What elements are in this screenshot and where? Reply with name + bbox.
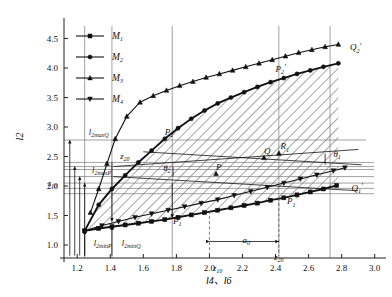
marker-square-M1-3 [123, 223, 127, 227]
y-tick-label-0: 1.0 [47, 240, 59, 250]
marker-circle-M2-6 [163, 137, 167, 141]
marker-circle-M2-1 [97, 203, 101, 207]
marker-square-M1-14 [269, 198, 273, 202]
chart-figure: 1.01.52.02.53.03.54.04.51.21.41.61.82.02… [0, 0, 392, 297]
marker-square-M1-5 [150, 219, 154, 223]
x-tick-label-3: 1.8 [171, 263, 183, 273]
y-tick-label-7: 4.5 [47, 34, 59, 44]
y-tick-label-6: 4.0 [47, 63, 59, 73]
marker-circle-M2-17 [308, 68, 312, 72]
marker-square-M1-13 [255, 201, 259, 205]
marker-square-M1-6 [163, 218, 167, 222]
annotation-P: P [215, 162, 222, 172]
marker-square-M1-10 [216, 208, 220, 212]
y-tick-label-4: 3.0 [47, 122, 59, 132]
marker-circle-M2-12 [242, 90, 246, 94]
y-tick-label-1: 1.5 [47, 211, 59, 221]
y-tick-label-3: 2.5 [47, 152, 59, 162]
marker-circle-M2-13 [255, 85, 259, 89]
marker-circle-M2-4 [136, 160, 140, 164]
x-tick-label-7: 2.6 [303, 263, 315, 273]
marker-square-M1-9 [202, 211, 206, 215]
marker-square-legend-M1 [88, 34, 92, 38]
marker-circle-M2-8 [189, 117, 193, 121]
x-tick-label-0: 1.2 [72, 263, 83, 273]
marker-circle-M2-14 [268, 80, 272, 84]
y-tick-label-5: 3.5 [47, 93, 59, 103]
marker-square-M1-15 [282, 196, 286, 200]
marker-circle-M2-15 [282, 76, 286, 80]
x-tick-label-9: 3.0 [369, 263, 381, 273]
x-tick-label-1: 1.4 [105, 263, 117, 273]
marker-square-M1-19 [335, 183, 339, 187]
marker-square-M1-11 [229, 206, 233, 210]
marker-square-M1-17 [308, 190, 312, 194]
marker-circle-M2-19 [336, 61, 340, 65]
marker-circle-M2-7 [176, 126, 180, 130]
x-tick-label-2: 1.6 [138, 263, 150, 273]
x-tick-label-6: 2.4 [270, 263, 282, 273]
annotation-Q: Q [264, 146, 271, 156]
marker-circle-M2-18 [321, 65, 325, 69]
marker-square-M1-4 [136, 221, 140, 225]
marker-square-M1-12 [242, 203, 246, 207]
marker-circle-M2-9 [202, 108, 206, 112]
x-tick-label-8: 2.8 [336, 263, 348, 273]
x-tick-label-5: 2.2 [237, 263, 248, 273]
marker-circle-M2-10 [216, 101, 220, 105]
marker-circle-M2-16 [295, 72, 299, 76]
marker-square-M1-8 [189, 213, 193, 217]
marker-circle-legend-M2 [88, 55, 92, 59]
marker-circle-M2-11 [229, 95, 233, 99]
chart-canvas: 1.01.52.02.53.03.54.04.51.21.41.61.82.02… [0, 0, 392, 297]
